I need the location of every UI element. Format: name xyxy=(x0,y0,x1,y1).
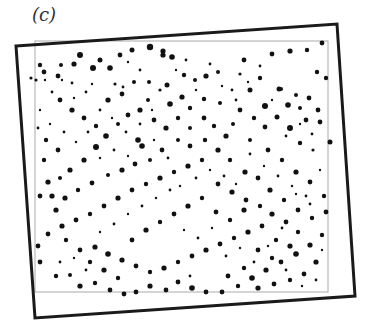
particle-dot xyxy=(99,231,101,233)
particle-dot xyxy=(315,279,318,282)
particle-dot xyxy=(287,48,292,53)
particle-dot xyxy=(226,274,231,279)
particle-dot xyxy=(242,266,246,270)
particle-dot xyxy=(58,98,63,103)
particle-dot xyxy=(42,70,47,75)
particle-dot xyxy=(307,96,312,101)
particle-dot xyxy=(322,194,326,198)
particle-dot xyxy=(118,53,123,58)
particle-dot xyxy=(46,232,51,237)
particle-dot xyxy=(34,78,37,81)
particle-dot xyxy=(107,65,113,71)
particle-dot xyxy=(155,197,157,199)
particle-dot xyxy=(38,194,43,199)
particle-dot xyxy=(274,238,278,242)
particle-dot xyxy=(139,69,142,72)
particle-dot xyxy=(238,108,243,113)
particle-dot xyxy=(248,138,252,142)
particle-dot xyxy=(288,278,292,282)
particle-dot xyxy=(218,101,222,105)
particle-dot xyxy=(280,158,284,162)
particle-dot xyxy=(58,176,62,180)
particle-dot xyxy=(203,73,208,78)
particle-dot xyxy=(182,73,186,77)
particle-dot xyxy=(134,264,139,269)
particle-dot xyxy=(76,188,80,192)
particle-dot xyxy=(101,267,106,272)
particle-dot xyxy=(69,107,74,112)
particle-dot xyxy=(179,185,181,187)
particle-dot xyxy=(308,180,313,185)
particle-dot xyxy=(295,193,297,195)
particle-dot xyxy=(151,109,153,111)
particle-dot xyxy=(253,261,256,264)
particle-dot xyxy=(172,170,176,174)
particle-dot xyxy=(73,257,75,259)
particle-dot xyxy=(44,138,48,142)
particle-dot xyxy=(73,97,75,99)
particle-dot xyxy=(235,183,237,185)
particle-dot xyxy=(320,41,325,46)
particle-dot xyxy=(105,251,111,257)
particle-dot xyxy=(263,267,268,272)
particle-dot xyxy=(228,218,232,222)
particle-dot xyxy=(51,91,54,94)
particle-dot xyxy=(152,118,157,123)
particle-dot xyxy=(263,125,268,130)
particle-dot xyxy=(38,260,43,265)
particle-dot xyxy=(143,227,148,232)
particle-dot xyxy=(127,61,129,63)
particle-dot xyxy=(266,148,271,153)
particle-dot xyxy=(307,242,312,247)
particle-dot xyxy=(153,139,155,141)
particle-dot xyxy=(134,290,139,295)
particle-dot xyxy=(258,76,262,80)
particle-dot xyxy=(93,281,97,285)
particle-dot xyxy=(176,260,180,264)
particle-dot xyxy=(229,189,234,194)
particle-dot xyxy=(188,126,192,130)
particle-dot xyxy=(315,70,319,74)
particle-dot xyxy=(75,141,77,143)
particle-dot xyxy=(90,181,95,186)
particle-dot xyxy=(275,115,280,120)
particle-dot xyxy=(215,147,220,152)
particle-dot xyxy=(190,254,195,259)
particle-dot xyxy=(37,127,40,130)
inner-reference-frame xyxy=(35,41,328,292)
particle-dot xyxy=(115,195,120,200)
particle-dot xyxy=(147,80,151,84)
particle-dot xyxy=(139,143,145,149)
particle-dot xyxy=(305,195,308,198)
particle-dot xyxy=(272,282,277,287)
particle-dot xyxy=(242,169,247,174)
particle-dot xyxy=(111,117,113,119)
particle-dot xyxy=(309,203,312,206)
particle-dot xyxy=(49,193,54,198)
particle-dot xyxy=(59,261,62,264)
particle-dot xyxy=(87,131,90,134)
particle-dot xyxy=(293,169,298,174)
particle-dot xyxy=(119,257,124,262)
particle-dot xyxy=(324,76,328,80)
particle-dot xyxy=(185,163,190,168)
particle-dot xyxy=(244,198,249,203)
particle-dot xyxy=(259,65,262,68)
particle-dot xyxy=(320,233,324,237)
particle-dot xyxy=(88,260,92,264)
particle-dot xyxy=(165,83,170,88)
particle-dot xyxy=(81,157,86,162)
particle-dot xyxy=(195,177,198,180)
particle-dot xyxy=(130,188,135,193)
particle-dot xyxy=(135,137,141,143)
particle-dot xyxy=(189,275,192,278)
particle-dot xyxy=(298,141,302,145)
particle-dot xyxy=(183,229,185,231)
particle-dot xyxy=(231,122,235,126)
particle-dot xyxy=(68,273,72,277)
particle-dot xyxy=(29,76,32,79)
particle-dot xyxy=(94,124,98,128)
particle-dot xyxy=(105,97,110,102)
particle-dot xyxy=(197,237,200,240)
particle-dot xyxy=(77,283,82,288)
